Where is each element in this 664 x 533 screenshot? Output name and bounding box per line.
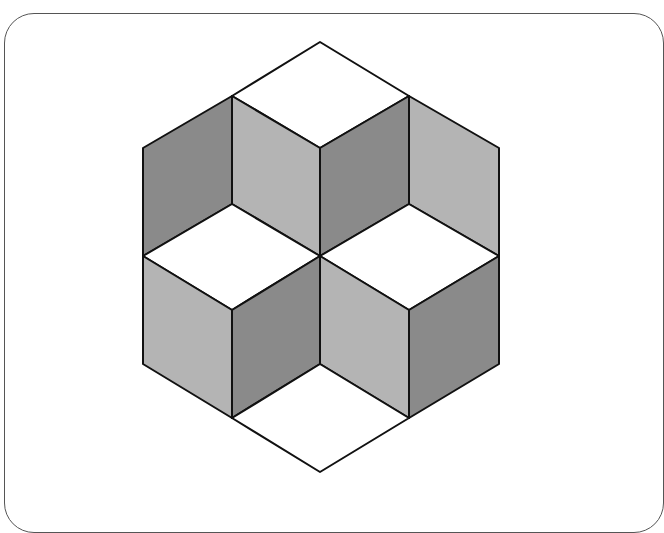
hexagon-cubes-diagram xyxy=(0,0,634,495)
